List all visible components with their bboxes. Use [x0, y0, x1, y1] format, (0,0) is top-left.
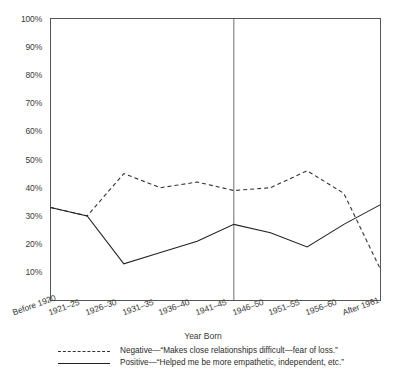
legend-label-positive: Positive—“Helped me be more empathetic, …	[120, 357, 344, 369]
series-line-negative	[51, 171, 381, 270]
legend-label-negative: Negative—“Makes close relationships diff…	[120, 345, 338, 357]
solid-line-swatch-icon	[58, 363, 110, 364]
plot-frame	[51, 19, 381, 301]
legend-item-negative: Negative—“Makes close relationships diff…	[58, 345, 344, 357]
series-line-positive	[51, 205, 381, 264]
dashed-line-swatch-icon	[58, 351, 110, 352]
x-axis-title: Year Born	[0, 331, 406, 341]
chart-legend: Negative—“Makes close relationships diff…	[58, 345, 344, 369]
chart-figure: 10%20%30%40%50%60%70%80%90%100% Before 1…	[0, 0, 406, 371]
legend-item-positive: Positive—“Helped me be more empathetic, …	[58, 357, 344, 369]
